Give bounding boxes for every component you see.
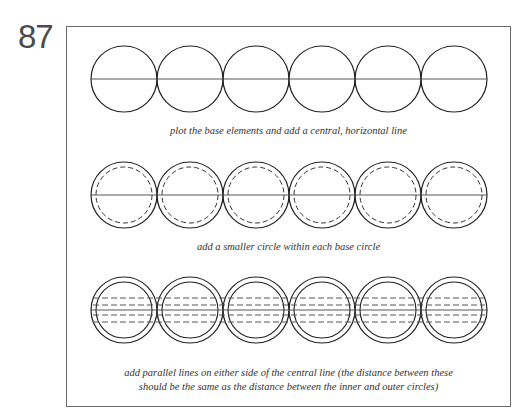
row-1-base-circles xyxy=(91,46,487,112)
caption-row-2: add a smaller circle within each base ci… xyxy=(66,240,511,254)
row-2-inner-circles xyxy=(91,162,487,228)
caption-row-1: plot the base elements and add a central… xyxy=(66,124,511,138)
caption-row-3-line-2: should be the same as the distance betwe… xyxy=(66,380,511,394)
row-3-parallel-lines xyxy=(91,277,487,343)
construction-diagram xyxy=(0,0,528,420)
caption-row-3-line-1: add parallel lines on either side of the… xyxy=(66,366,511,380)
